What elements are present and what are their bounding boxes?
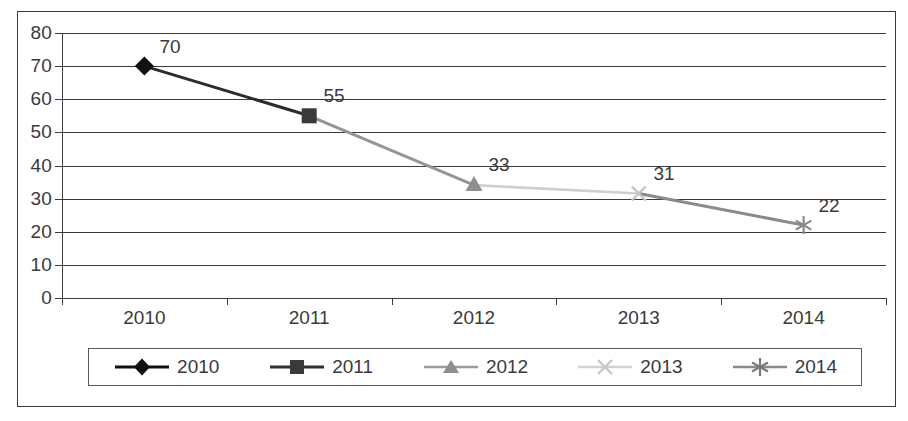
x-tick-mark-1 <box>227 298 228 305</box>
square-marker-icon <box>268 356 326 378</box>
data-label-2012: 33 <box>488 154 509 176</box>
plot-area <box>62 33 886 298</box>
x-tick-mark-3 <box>556 298 557 305</box>
data-label-2014: 22 <box>818 195 839 217</box>
x-tick-label-2013: 2013 <box>618 307 660 329</box>
data-label-2013: 31 <box>653 163 674 185</box>
asterisk-marker-icon <box>731 356 789 378</box>
y-tick-mark-50 <box>55 132 62 133</box>
chart-figure: 80 70 60 50 40 30 20 10 0 2010 2011 2012… <box>0 0 908 421</box>
data-label-2011: 55 <box>323 85 344 107</box>
y-tick-label-40: 40 <box>30 155 52 177</box>
legend-item-2012[interactable]: 2012 <box>398 356 552 378</box>
legend-item-2011[interactable]: 2011 <box>243 356 397 378</box>
x-tick-label-2014: 2014 <box>782 307 824 329</box>
y-tick-mark-60 <box>55 99 62 100</box>
triangle-marker-icon <box>422 356 480 378</box>
legend-label-2011: 2011 <box>332 356 373 378</box>
y-tick-mark-70 <box>55 66 62 67</box>
y-axis-line <box>62 33 63 298</box>
data-label-2010: 70 <box>159 36 180 58</box>
legend-label-2012: 2012 <box>486 356 528 378</box>
gridline-80 <box>62 33 886 34</box>
y-tick-mark-80 <box>55 33 62 34</box>
gridline-10 <box>62 265 886 266</box>
gridline-60 <box>62 99 886 100</box>
x-tick-mark-2 <box>392 298 393 305</box>
diamond-marker-icon <box>113 356 171 378</box>
y-tick-label-30: 30 <box>30 188 52 210</box>
gridline-20 <box>62 232 886 233</box>
gridline-40 <box>62 166 886 167</box>
y-tick-label-0: 0 <box>41 287 52 309</box>
y-tick-mark-10 <box>55 265 62 266</box>
legend-label-2010: 2010 <box>177 356 219 378</box>
y-tick-label-80: 80 <box>30 22 52 44</box>
x-tick-mark-5 <box>886 298 887 305</box>
x-tick-mark-4 <box>721 298 722 305</box>
x-tick-label-2012: 2012 <box>453 307 495 329</box>
y-tick-label-20: 20 <box>30 221 52 243</box>
legend-item-2013[interactable]: 2013 <box>552 356 706 378</box>
gridline-30 <box>62 199 886 200</box>
y-tick-label-60: 60 <box>30 88 52 110</box>
legend-item-2010[interactable]: 2010 <box>89 356 243 378</box>
gridline-50 <box>62 132 886 133</box>
y-tick-label-50: 50 <box>30 121 52 143</box>
y-tick-mark-40 <box>55 166 62 167</box>
y-tick-label-10: 10 <box>30 254 52 276</box>
y-axis-tick-labels: 80 70 60 50 40 30 20 10 0 <box>0 0 52 421</box>
y-tick-label-70: 70 <box>30 55 52 77</box>
y-tick-mark-0 <box>55 298 62 299</box>
y-tick-mark-30 <box>55 199 62 200</box>
legend-label-2014: 2014 <box>795 356 837 378</box>
x-tick-label-2011: 2011 <box>289 307 330 329</box>
x-marker-icon <box>576 356 634 378</box>
x-tick-mark-0 <box>62 298 63 305</box>
y-tick-mark-20 <box>55 232 62 233</box>
x-axis-line <box>62 298 886 299</box>
chart-legend: 2010 2011 2012 <box>88 348 862 386</box>
legend-label-2013: 2013 <box>640 356 682 378</box>
x-tick-label-2010: 2010 <box>123 307 165 329</box>
gridline-70 <box>62 66 886 67</box>
legend-item-2014[interactable]: 2014 <box>707 356 861 378</box>
